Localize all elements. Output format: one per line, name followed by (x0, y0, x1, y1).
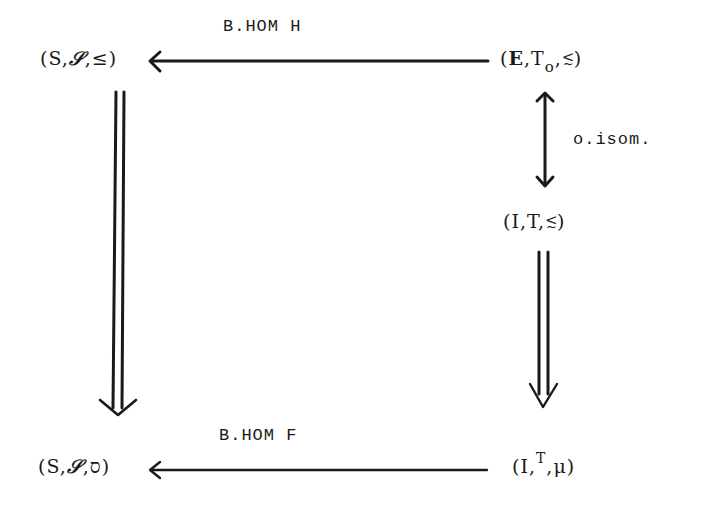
separator: , (524, 47, 531, 69)
node-mid-right: (I,T,<~) (503, 210, 565, 232)
node-family-symbol: 𝒮 (67, 455, 83, 477)
node-relation-symbol: <~ (562, 47, 574, 69)
arrow-bhom-h (150, 52, 488, 71)
node-topology-subscript: o (545, 58, 555, 76)
node-top-left: (S,𝒮,≤) (40, 47, 117, 70)
relation-bottom: ~ (546, 219, 558, 234)
node-set-symbol: I (520, 455, 529, 477)
arrow-bhom-f (150, 462, 487, 478)
node-set-symbol: E (508, 47, 523, 69)
node-set-symbol: S (48, 47, 61, 69)
paren-close: ) (567, 455, 575, 477)
arrow-left-double (100, 92, 136, 415)
node-bottom-left: (S,𝒮,ס) (38, 455, 110, 478)
node-bottom-right: (I,T,μ) (512, 455, 575, 477)
separator: , (60, 455, 67, 477)
node-relation-symbol: ≤ (92, 47, 109, 69)
node-measure-symbol: ס (90, 455, 102, 477)
arrow-right-double (530, 252, 557, 407)
separator: , (62, 47, 69, 69)
label-o-isom: o.isom. (573, 130, 651, 149)
node-top-right: (E,To,<~) (500, 47, 582, 69)
paren-close: ) (109, 47, 117, 69)
diagram-arrows (0, 0, 711, 507)
separator: , (520, 210, 527, 232)
commutative-diagram: B.HOM H o.isom. B.HOM F (S,𝒮,≤) (E,To,<~… (0, 0, 711, 507)
node-set-symbol: I (511, 210, 520, 232)
node-family-symbol: 𝒮 (69, 47, 85, 69)
separator: , (529, 455, 536, 477)
node-topology-symbol: T (527, 210, 538, 232)
node-relation-symbol: <~ (545, 210, 557, 232)
separator: , (555, 47, 562, 69)
arrow-o-isom (537, 93, 553, 186)
relation-bottom: ~ (563, 56, 575, 71)
node-set-symbol: S (46, 455, 59, 477)
separator: , (83, 455, 90, 477)
label-bhom-f: B.HOM F (219, 426, 297, 445)
node-measure-symbol: μ (553, 455, 566, 477)
separator: , (538, 210, 545, 232)
node-topology-symbol: T (536, 450, 546, 466)
separator: , (85, 47, 92, 69)
label-bhom-h: B.HOM H (223, 17, 301, 36)
node-topology-symbol: T (531, 47, 545, 69)
paren-close: ) (102, 455, 110, 477)
